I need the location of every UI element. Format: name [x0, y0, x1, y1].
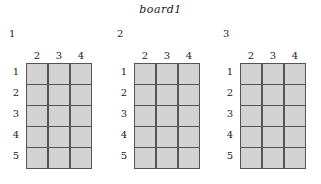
grid-cell	[49, 64, 69, 84]
row-label: 1	[114, 66, 134, 77]
grid-cell	[135, 85, 155, 105]
row-label: 4	[114, 129, 134, 140]
row-label: 5	[6, 150, 26, 161]
grid-cell	[241, 64, 261, 84]
grid-cell	[285, 85, 305, 105]
grid-cell	[71, 106, 91, 126]
grid-cell	[71, 85, 91, 105]
column-label: 3	[262, 50, 284, 61]
grid-cell	[263, 64, 283, 84]
column-label: 4	[178, 50, 200, 61]
column-label: 3	[48, 50, 70, 61]
grid-cell	[157, 64, 177, 84]
grid-cell	[49, 148, 69, 168]
grid-cell	[157, 127, 177, 147]
column-label: 4	[284, 50, 306, 61]
row-label: 2	[220, 87, 240, 98]
grid-cell	[285, 64, 305, 84]
board-grid	[134, 63, 200, 169]
row-label: 5	[220, 150, 240, 161]
grid-cell	[263, 148, 283, 168]
row-label: 2	[6, 87, 26, 98]
row-label: 3	[114, 108, 134, 119]
grid-cell	[71, 148, 91, 168]
row-label: 4	[220, 129, 240, 140]
grid-cell	[135, 148, 155, 168]
board-3: 323412345	[220, 0, 320, 184]
grid-cell	[157, 85, 177, 105]
grid-cell	[263, 85, 283, 105]
grid-cell	[179, 85, 199, 105]
column-label: 2	[240, 50, 262, 61]
column-label: 2	[26, 50, 48, 61]
grid-cell	[27, 106, 47, 126]
board-2: 223412345	[114, 0, 214, 184]
grid-cell	[263, 106, 283, 126]
grid-cell	[135, 127, 155, 147]
grid-cell	[241, 127, 261, 147]
column-label: 4	[70, 50, 92, 61]
grid-cell	[71, 64, 91, 84]
grid-cell	[71, 127, 91, 147]
grid-cell	[241, 106, 261, 126]
board-1: 123412345	[6, 0, 106, 184]
row-label: 3	[220, 108, 240, 119]
board-label: 1	[9, 28, 15, 39]
grid-cell	[241, 148, 261, 168]
board-grid	[26, 63, 92, 169]
grid-cell	[157, 106, 177, 126]
grid-cell	[27, 85, 47, 105]
grid-cell	[135, 106, 155, 126]
row-label: 3	[6, 108, 26, 119]
board-label: 3	[223, 28, 229, 39]
board-label: 2	[117, 28, 123, 39]
grid-cell	[263, 127, 283, 147]
row-label: 1	[220, 66, 240, 77]
grid-cell	[179, 148, 199, 168]
grid-cell	[49, 127, 69, 147]
row-label: 2	[114, 87, 134, 98]
grid-cell	[27, 64, 47, 84]
grid-cell	[27, 148, 47, 168]
grid-cell	[135, 64, 155, 84]
grid-cell	[241, 85, 261, 105]
grid-cell	[179, 106, 199, 126]
grid-cell	[49, 106, 69, 126]
board-grid	[240, 63, 306, 169]
column-label: 3	[156, 50, 178, 61]
grid-cell	[179, 127, 199, 147]
grid-cell	[27, 127, 47, 147]
row-label: 5	[114, 150, 134, 161]
row-label: 1	[6, 66, 26, 77]
column-label: 2	[134, 50, 156, 61]
grid-cell	[285, 106, 305, 126]
grid-cell	[179, 64, 199, 84]
grid-cell	[285, 127, 305, 147]
row-label: 4	[6, 129, 26, 140]
grid-cell	[49, 85, 69, 105]
grid-cell	[285, 148, 305, 168]
grid-cell	[157, 148, 177, 168]
